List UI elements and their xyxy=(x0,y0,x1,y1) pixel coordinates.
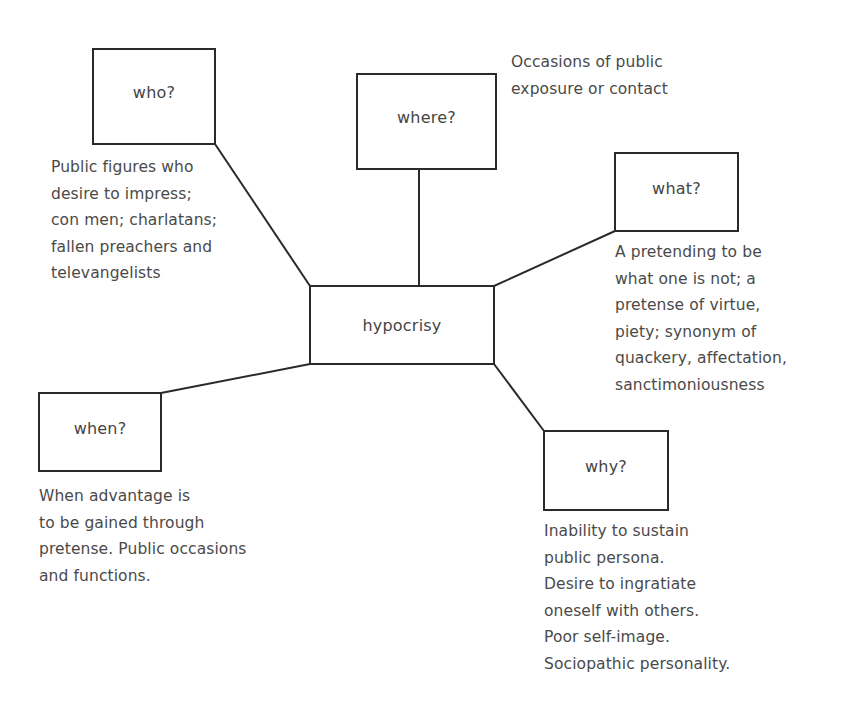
node-who: who? xyxy=(92,48,216,145)
center-node-hypocrisy: hypocrisy xyxy=(309,285,495,365)
node-where: where? xyxy=(356,73,497,170)
connector-why xyxy=(494,364,544,431)
note-what: A pretending to be what one is not; a pr… xyxy=(615,239,787,398)
connector-when xyxy=(161,364,310,393)
spider-map-diagram: hypocrisy who? Public figures who desire… xyxy=(0,0,848,708)
node-when-label: when? xyxy=(74,419,127,438)
note-where: Occasions of public exposure or contact xyxy=(511,49,668,102)
center-label: hypocrisy xyxy=(363,316,442,335)
note-who: Public figures who desire to impress; co… xyxy=(51,154,217,287)
node-where-label: where? xyxy=(397,108,456,127)
node-why: why? xyxy=(543,430,669,511)
node-what-label: what? xyxy=(652,179,701,198)
node-when: when? xyxy=(38,392,162,472)
node-why-label: why? xyxy=(585,457,627,476)
connector-who xyxy=(215,144,310,286)
note-why: Inability to sustain public persona. Des… xyxy=(544,518,730,677)
node-who-label: who? xyxy=(133,83,175,102)
node-what: what? xyxy=(614,152,739,232)
connector-what xyxy=(494,231,615,286)
note-when: When advantage is to be gained through p… xyxy=(39,483,247,589)
